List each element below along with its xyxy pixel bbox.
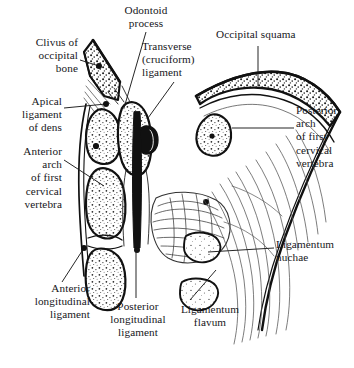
label-anterior-longitudinal-ligament: Anterior longitudinal ligament: [10, 282, 90, 322]
label-anterior-arch-of-first-cervical-vertebra: Anterior arch of first cervical vertebra: [0, 145, 62, 211]
leader-ant-long: [62, 248, 84, 282]
anatomical-figure: Odontoid process Clivus of occipital bon…: [0, 0, 354, 368]
label-odontoid-process: Odontoid process: [104, 4, 188, 30]
label-apical-ligament-of-dens: Apical ligament of dens: [0, 95, 62, 135]
label-transverse-ligament: Transverse (cruciform) ligament: [142, 40, 232, 80]
label-occipital-squama: Occipital squama: [216, 28, 332, 41]
leader-transverse: [148, 82, 174, 118]
illustration-ink: [79, 40, 340, 344]
label-posterior-arch-of-first-cervical-vertebra: Posterior arch of first cervical vertebr…: [296, 104, 354, 170]
posterior-longitudinal-ligament-structure: [133, 112, 142, 253]
label-ligamentum-nuchae: Ligamentum nuchae: [276, 238, 354, 264]
posterior-arch-of-atlas-structure: [196, 114, 231, 155]
label-ligamentum-flavum: Ligamentum flavum: [168, 303, 252, 329]
label-clivus-of-occipital-bone: Clivus of occipital bone: [0, 36, 78, 76]
